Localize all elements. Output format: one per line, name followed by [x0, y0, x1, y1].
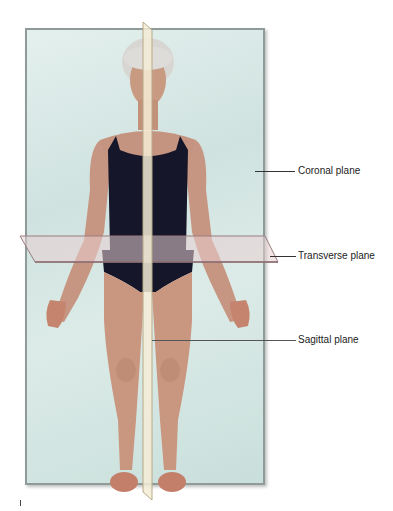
right-arm: [186, 140, 242, 322]
coronal-plane-label: Coronal plane: [298, 165, 360, 176]
right-foot: [158, 472, 186, 492]
corner-tick-mark: [20, 500, 21, 506]
left-foot: [110, 472, 138, 492]
transverse-leader-line: [270, 256, 296, 257]
sagittal-leader-line: [152, 340, 296, 341]
sagittal-plane-label: Sagittal plane: [298, 334, 359, 345]
left-arm: [52, 140, 110, 322]
transverse-plane-label: Transverse plane: [298, 250, 375, 261]
coronal-leader-line: [255, 171, 295, 172]
anatomical-planes-figure: Coronal plane Transverse plane Sagittal …: [0, 0, 393, 511]
sagittal-plane: [143, 22, 152, 500]
